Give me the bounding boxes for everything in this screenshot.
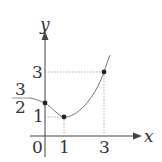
y-tick-1: 1 [33,108,44,125]
y-axis-label: y [40,16,50,33]
y-fraction-denominator: 2 [15,99,26,116]
x-axis-arrow-icon [133,133,142,140]
point-1-1 [62,115,67,120]
y-tick-3: 3 [32,64,43,81]
point-0-1.5 [43,101,48,106]
y-fraction-numerator: 3 [15,81,26,98]
function-graph-diagram: y x 0 1 3 1 3 3 2 [0,0,162,162]
x-axis-label: x [144,128,154,145]
x-tick-3: 3 [99,139,110,156]
point-3-3 [102,70,107,75]
x-tick-1: 1 [59,139,70,156]
origin-label: 0 [32,139,43,156]
